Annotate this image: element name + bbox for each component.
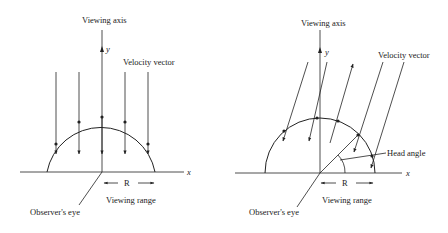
observer-label: Observer's eye <box>249 207 299 217</box>
observer-leader-line <box>79 172 102 205</box>
velocity-vector <box>283 62 308 141</box>
intersection-dot <box>356 133 359 136</box>
intersection-dot <box>336 119 339 122</box>
x-axis-label: x <box>186 167 191 177</box>
head-angle-arc <box>338 155 345 173</box>
velocity-vector <box>309 62 327 141</box>
intersection-dot <box>370 154 373 157</box>
viewing-range-label: Viewing range <box>106 195 156 205</box>
intersection-dot <box>100 115 103 118</box>
x-axis-label: x <box>405 168 410 178</box>
viewing-range-label: Viewing range <box>322 195 372 205</box>
left-labels: Viewing axis y Velocity vector x R Viewi… <box>30 15 191 217</box>
head-angle-leader <box>340 153 386 160</box>
y-axis-label: y <box>105 44 110 54</box>
intersection-dot <box>282 129 285 132</box>
radial-line <box>320 135 358 173</box>
observer-leader-line <box>297 173 320 207</box>
velocity-vector-label: Velocity vector <box>123 57 175 67</box>
velocity-vector <box>330 64 353 143</box>
intersection-dot <box>54 142 57 145</box>
intersection-dot <box>315 116 318 119</box>
y-axis-arrow-icon <box>100 46 104 52</box>
diagram-canvas: Viewing axis y Velocity vector x R Viewi… <box>0 0 448 233</box>
intersection-dot <box>123 120 126 123</box>
velocity-vector-label: Velocity vector <box>378 50 430 60</box>
right-labels: Viewing axis y Velocity vector Head angl… <box>249 18 430 217</box>
range-symbol-label: R <box>342 178 348 188</box>
range-symbol-label: R <box>124 178 130 188</box>
viewing-axis-label: Viewing axis <box>301 18 346 28</box>
viewing-range-semicircle <box>47 127 155 172</box>
observer-label: Observer's eye <box>30 207 80 217</box>
intersection-dot <box>77 120 80 123</box>
viewing-axis-label: Viewing axis <box>82 15 127 25</box>
velocity-vector <box>354 62 383 152</box>
y-axis-label: y <box>324 47 329 57</box>
y-axis-arrow-icon <box>318 47 322 53</box>
intersection-dot <box>146 142 149 145</box>
head-angle-label: Head angle <box>387 148 426 158</box>
